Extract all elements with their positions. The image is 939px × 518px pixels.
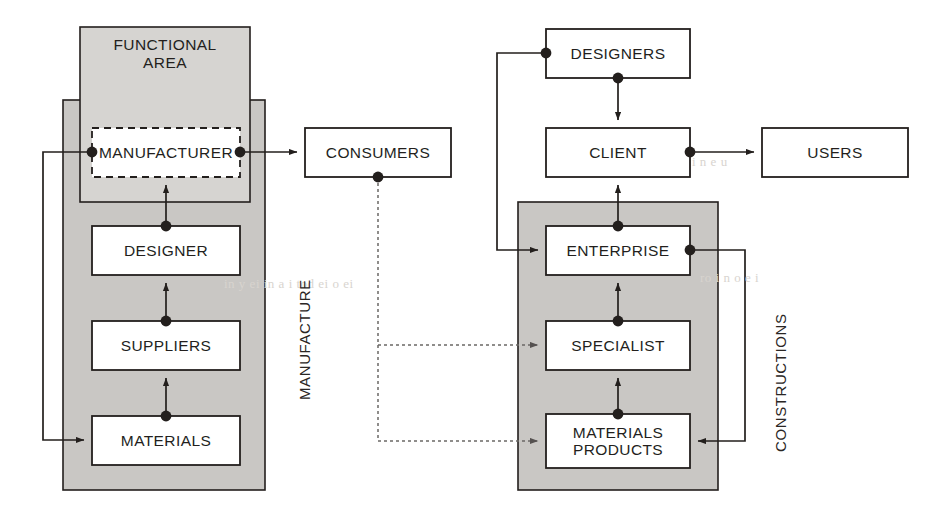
dot-designers-bottom xyxy=(613,73,624,84)
dot-manufacturer-right xyxy=(235,147,246,158)
process-flow-diagram xyxy=(0,0,939,518)
box-designers[interactable] xyxy=(546,29,690,78)
box-materials-products[interactable] xyxy=(546,414,690,468)
connectors-dashed xyxy=(378,177,538,441)
box-consumers[interactable] xyxy=(305,128,451,177)
box-manufacturer[interactable] xyxy=(92,128,240,177)
dot-consumers-bottom xyxy=(373,172,384,183)
dot-client-right xyxy=(685,147,696,158)
box-client[interactable] xyxy=(546,128,690,177)
dot-enterprise-top xyxy=(613,221,624,232)
box-suppliers[interactable] xyxy=(92,321,240,370)
dot-enterprise-right xyxy=(685,245,696,256)
dot-manufacturer-left xyxy=(87,147,98,158)
dot-designers-left xyxy=(541,48,552,59)
dot-specialist-top xyxy=(613,316,624,327)
box-materials[interactable] xyxy=(92,416,240,465)
box-enterprise[interactable] xyxy=(546,226,690,275)
dot-suppliers-top xyxy=(161,316,172,327)
box-users[interactable] xyxy=(762,128,908,177)
box-specialist[interactable] xyxy=(546,321,690,370)
dot-materials-products-top xyxy=(613,409,624,420)
box-designer[interactable] xyxy=(92,226,240,275)
dot-materials-top xyxy=(161,411,172,422)
dot-designer-top xyxy=(161,221,172,232)
